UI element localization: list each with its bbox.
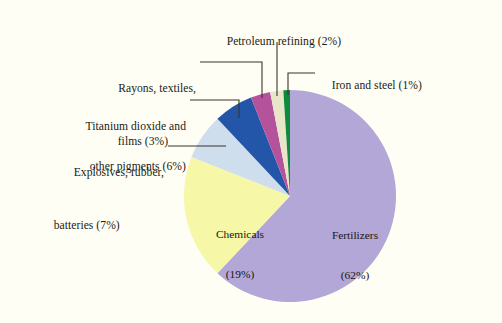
slice-label-chemicals-value: (19%) <box>185 268 295 281</box>
label-explosives-rubber-batteries: Explosives, rubber, batteries (7%) <box>14 139 164 273</box>
label-explosives-line2: batteries (7%) <box>14 206 164 246</box>
label-petroleum-refining: Petroleum refining (2%) <box>188 22 368 62</box>
slice-label-chemicals-name: Chemicals <box>185 228 295 241</box>
leader-line-rayons <box>200 62 262 98</box>
label-iron-and-steel: Iron and steel (1%) <box>320 66 480 106</box>
label-titanium-line1: Titanium dioxide and <box>20 120 186 133</box>
label-petroleum-refining-text: Petroleum refining (2%) <box>227 35 341 48</box>
slice-label-chemicals: Chemicals (19%) <box>185 202 295 308</box>
pie-chart-figure: Petroleum refining (2%) Iron and steel (… <box>0 0 502 323</box>
label-iron-and-steel-text: Iron and steel (1%) <box>332 79 422 92</box>
label-explosives-line1: Explosives, rubber, <box>14 166 164 179</box>
slice-label-fertilizers-name: Fertilizers <box>300 229 410 242</box>
slice-label-fertilizers-value: (62%) <box>300 269 410 282</box>
slice-label-fertilizers: Fertilizers (62%) <box>300 203 410 309</box>
label-explosives-line2-text: batteries (7%) <box>54 219 120 232</box>
